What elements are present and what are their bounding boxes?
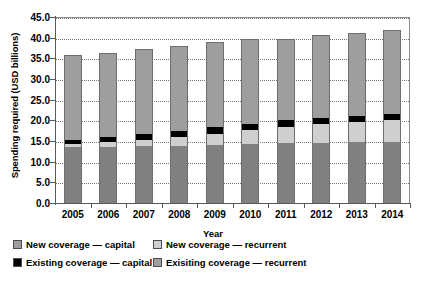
legend-swatch-icon <box>13 240 22 249</box>
bars-layer <box>55 17 410 203</box>
x-axis-tick-mark <box>410 203 411 208</box>
y-axis-tick-label: 25.0 <box>4 94 50 105</box>
legend-label: New coverage — recurrent <box>166 239 286 250</box>
bar-group[interactable] <box>348 33 366 203</box>
y-axis-tick-label: 45.0 <box>4 12 50 23</box>
x-axis-tick-mark <box>339 203 340 208</box>
x-axis-tick-label: 2008 <box>168 209 190 220</box>
chart-legend: New coverage — capitalNew coverage — rec… <box>13 236 413 276</box>
legend-label: New coverage — capital <box>26 239 135 250</box>
x-axis-tick-label: 2014 <box>381 209 403 220</box>
bar-segment <box>277 39 295 120</box>
x-axis-tick-mark <box>268 203 269 208</box>
legend-swatch-icon <box>153 240 162 249</box>
bar-segment <box>312 143 330 203</box>
bar-segment <box>383 30 401 114</box>
bar-group[interactable] <box>135 49 153 203</box>
bar-segment <box>99 53 117 138</box>
legend-row: Existing coverage — capitalExisiting cov… <box>13 254 413 270</box>
bar-segment <box>64 147 82 203</box>
bar-segment <box>170 46 188 130</box>
x-axis-tick-label: 2007 <box>133 209 155 220</box>
y-axis-tick-label: 35.0 <box>4 53 50 64</box>
bar-group[interactable] <box>170 46 188 203</box>
legend-row: New coverage — capitalNew coverage — rec… <box>13 236 413 252</box>
x-axis-tick-label: 2010 <box>239 209 261 220</box>
bar-group[interactable] <box>206 42 224 203</box>
x-axis-tick-mark <box>126 203 127 208</box>
y-axis-tick-label: 15.0 <box>4 136 50 147</box>
legend-label: Exisiting coverage — recurrent <box>166 257 306 268</box>
x-axis-tick-label: 2011 <box>275 209 297 220</box>
legend-label: Existing coverage — capital <box>26 257 152 268</box>
legend-item[interactable]: New coverage — recurrent <box>153 236 286 252</box>
legend-swatch-icon <box>13 258 22 267</box>
bar-segment <box>135 49 153 134</box>
y-axis-tick-label: 10.0 <box>4 156 50 167</box>
legend-item[interactable]: Exisiting coverage — recurrent <box>153 254 306 270</box>
bar-segment <box>241 144 259 203</box>
bar-group[interactable] <box>241 39 259 203</box>
bar-segment <box>64 55 82 139</box>
bar-segment <box>348 122 366 142</box>
chart-figure: Spending required (USD billions) 0.05.01… <box>0 0 426 281</box>
x-axis-tick-mark <box>162 203 163 208</box>
x-axis-tick-label: 2013 <box>346 209 368 220</box>
y-axis-tick-label: 0.0 <box>4 198 50 209</box>
bar-group[interactable] <box>64 55 82 203</box>
x-axis-tick-label: 2009 <box>204 209 226 220</box>
bar-segment <box>348 33 366 116</box>
bar-segment <box>206 134 224 145</box>
legend-swatch-icon <box>153 258 162 267</box>
x-axis-tick-mark <box>197 203 198 208</box>
y-axis-tick-label: 30.0 <box>4 74 50 85</box>
bar-segment <box>348 142 366 203</box>
x-axis-tick-mark <box>304 203 305 208</box>
x-axis-tick-labels: 2005200620072008200920102011201220132014 <box>55 203 410 227</box>
bar-segment <box>170 137 188 146</box>
bar-segment <box>135 146 153 203</box>
x-axis-tick-label: 2012 <box>310 209 332 220</box>
x-axis-tick-label: 2006 <box>97 209 119 220</box>
x-axis-tick-mark <box>375 203 376 208</box>
bar-segment <box>170 146 188 203</box>
y-axis-tick-label: 5.0 <box>4 177 50 188</box>
bar-segment <box>206 145 224 203</box>
y-axis-tick-label: 20.0 <box>4 115 50 126</box>
bar-segment <box>99 147 117 203</box>
bar-segment <box>277 143 295 203</box>
bar-segment <box>383 142 401 203</box>
bar-group[interactable] <box>99 53 117 203</box>
bar-segment <box>383 120 401 142</box>
bar-group[interactable] <box>312 35 330 203</box>
bar-segment <box>241 39 259 124</box>
x-axis-tick-mark <box>233 203 234 208</box>
bar-segment <box>241 130 259 144</box>
y-axis-tick-label: 40.0 <box>4 32 50 43</box>
bar-segment <box>277 127 295 144</box>
bar-group[interactable] <box>277 39 295 203</box>
legend-item[interactable]: Existing coverage — capital <box>13 254 152 270</box>
bar-group[interactable] <box>383 30 401 203</box>
bar-segment <box>206 42 224 127</box>
x-axis-tick-label: 2005 <box>62 209 84 220</box>
bar-segment <box>312 124 330 142</box>
legend-item[interactable]: New coverage — capital <box>13 236 135 252</box>
x-axis-tick-mark <box>91 203 92 208</box>
bar-segment <box>312 35 330 118</box>
